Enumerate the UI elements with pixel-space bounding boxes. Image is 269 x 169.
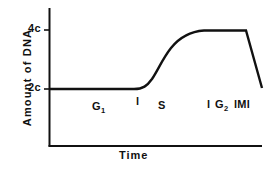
phase-label-g1: G1 [92,101,106,115]
x-axis-title: Time [119,150,148,161]
phase-label-g2: G2 [215,99,229,113]
phase-label-g2-subscript: 2 [224,104,229,113]
dna-content-chart: 4c 2c Amount of DNA Time G1 l S l G2 lMl [0,0,269,169]
phase-label-g1-text: G [92,100,101,112]
phase-divider-s-g2: l [207,99,210,110]
phase-label-m: lMl [234,99,250,110]
dna-content-curve [50,31,262,90]
y-axis-title: Amount of DNA [22,23,33,133]
phase-divider-g1-s: l [136,96,139,107]
phase-label-g2-text: G [215,98,224,110]
phase-label-g1-subscript: 1 [101,106,106,115]
phase-label-s: S [158,100,166,111]
